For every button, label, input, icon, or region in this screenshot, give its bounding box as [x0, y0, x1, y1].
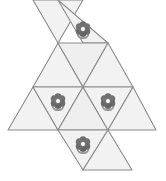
triangular-net-figure — [0, 0, 166, 181]
net-canvas — [0, 0, 166, 181]
net-faces-layer — [8, 0, 156, 170]
